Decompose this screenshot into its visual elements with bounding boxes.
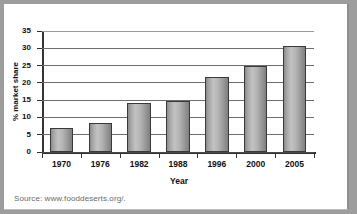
y-tick-mark (37, 65, 42, 66)
y-tick-label: 5 (4, 131, 31, 139)
x-tick-mark (120, 153, 121, 158)
x-tick-mark (159, 153, 160, 158)
bar (89, 123, 112, 152)
bar (50, 128, 73, 152)
x-tick-label: 1988 (169, 160, 188, 169)
y-tick-mark (37, 82, 42, 83)
y-tick-label: 15 (4, 96, 31, 104)
gridline (42, 31, 314, 32)
x-tick-label: 2005 (285, 160, 304, 169)
y-tick-mark (37, 48, 42, 49)
x-tick-label: 1982 (130, 160, 149, 169)
bar (244, 66, 267, 152)
y-tick-label: 25 (4, 62, 31, 70)
bar (166, 101, 189, 152)
y-tick-label: 35 (4, 27, 31, 35)
x-tick-mark (197, 153, 198, 158)
gridline (42, 65, 314, 66)
bar (283, 46, 306, 152)
y-tick-mark (37, 134, 42, 135)
x-axis-title: Year (42, 176, 316, 186)
x-tick-mark (314, 153, 315, 158)
chart-figure: % market share 05101520253035 1970197619… (0, 0, 357, 214)
source-caption: Source: www.fooddeserts.org/. (14, 194, 126, 203)
x-tick-label: 2000 (246, 160, 265, 169)
x-tick-mark (275, 153, 276, 158)
chart-panel: % market share 05101520253035 1970197619… (4, 4, 349, 210)
y-tick-mark (37, 117, 42, 118)
x-tick-label: 1976 (91, 160, 110, 169)
y-tick-label: 0 (4, 148, 31, 156)
y-tick-mark (37, 31, 42, 32)
x-tick-mark (42, 153, 43, 158)
y-tick-label: 30 (4, 44, 31, 52)
gridline (42, 48, 314, 49)
gridline (42, 82, 314, 83)
bar (127, 103, 150, 152)
y-tick-mark (37, 100, 42, 101)
x-tick-label: 1970 (52, 160, 71, 169)
x-tick-mark (81, 153, 82, 158)
y-tick-label: 20 (4, 79, 31, 87)
y-axis-title-label: % market share (12, 62, 21, 121)
bar (205, 77, 228, 152)
x-tick-mark (236, 153, 237, 158)
x-tick-label: 1996 (207, 160, 226, 169)
plot-area (42, 31, 314, 152)
y-tick-label: 10 (4, 113, 31, 121)
